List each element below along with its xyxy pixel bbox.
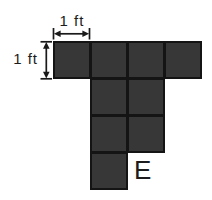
unit-square — [127, 78, 165, 116]
height-dimension-label: 1 ft — [7, 50, 38, 67]
height-arrow-icon — [41, 42, 53, 79]
width-arrow-icon — [54, 28, 90, 40]
unit-square — [53, 41, 91, 79]
height-arrow-top-head — [43, 42, 50, 49]
width-dimension-label: 1 ft — [52, 12, 92, 29]
height-arrow-bottom-head — [43, 72, 50, 79]
width-arrow-right-head — [82, 31, 89, 38]
unit-square — [90, 152, 128, 190]
unit-square — [127, 41, 165, 79]
unit-square — [90, 115, 128, 153]
unit-square — [90, 78, 128, 116]
figure-letter-label: E — [134, 157, 151, 183]
unit-square — [127, 115, 165, 153]
unit-square — [90, 41, 128, 79]
unit-square — [164, 41, 202, 79]
figure-canvas: 1 ft 1 ft E — [0, 0, 212, 200]
width-arrow-left-head — [54, 31, 61, 38]
